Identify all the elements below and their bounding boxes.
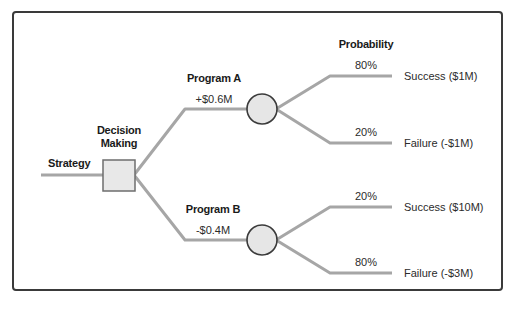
program-b-failure-probability: 80% [355,256,377,268]
branch-program-a [134,109,248,175]
decision-node-square [103,160,135,191]
program-b-label: Program B [186,203,240,215]
chance-node-program-b [247,225,277,255]
chance-node-program-a [247,94,277,124]
program-b-success-label: Success ($10M) [404,201,483,213]
program-a-value: +$0.6M [196,93,233,105]
probability-header: Probability [339,38,394,50]
program-a-success-probability: 80% [355,59,377,71]
program-a-success-label: Success ($1M) [404,70,477,82]
program-a-failure-probability: 20% [355,126,377,138]
strategy-label: Strategy [48,157,90,169]
branch-b-success [276,207,392,240]
program-b-success-probability: 20% [355,190,377,202]
program-b-value: -$0.4M [196,224,230,236]
program-a-failure-label: Failure (-$1M) [404,137,473,149]
program-b-failure-label: Failure (-$3M) [404,267,473,279]
branch-a-success [276,76,392,109]
decision-making-label-line2: Making [101,137,138,149]
decision-making-label-line1: Decision [97,124,141,136]
program-a-label: Program A [187,72,241,84]
